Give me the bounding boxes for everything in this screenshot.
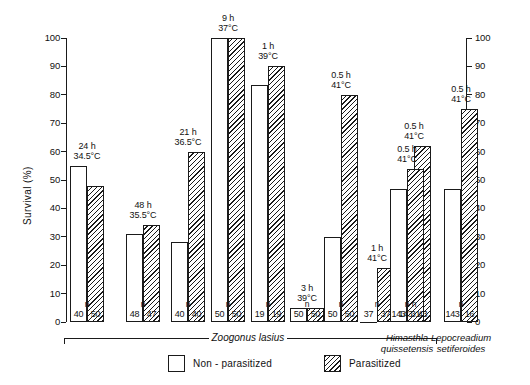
bar-hatched-10	[461, 109, 478, 322]
bar-open-7	[360, 322, 377, 323]
y-tick-label-left-0: 0	[30, 317, 60, 327]
legend-swatch-open-icon	[168, 355, 185, 372]
y-tick-label-left-100: 100	[30, 33, 60, 43]
n-value-hatched-1: 47	[139, 310, 164, 319]
annotation-temperature-10: 41°C	[435, 94, 487, 104]
legend-item-non-parasitized: Non - parasitized	[168, 355, 272, 372]
y-tick-left-40	[61, 208, 66, 209]
species-label-lepocreadium-setiferoides-line1: Lepocreadium	[419, 332, 503, 343]
y-tick-label-left-20: 20	[30, 260, 60, 270]
y-tick-left-0	[61, 322, 66, 323]
species-label-lepocreadium-setiferoides: Lepocreadiumsetiferoides	[419, 332, 503, 354]
survival-bar-chart: Survival (%) 001010202030304040505060607…	[0, 0, 530, 385]
y-tick-label-right-60: 60	[475, 147, 505, 157]
y-tick-left-50	[61, 180, 66, 181]
y-tick-label-right-30: 30	[475, 232, 505, 242]
n-marker-6: n	[327, 300, 355, 309]
n-value-hatched-2: 40	[184, 310, 209, 319]
y-tick-left-80	[61, 94, 66, 95]
species-label-lepocreadium-setiferoides-line2: setiferoides	[419, 343, 503, 354]
bar-open-3	[211, 38, 228, 322]
y-tick-right-100	[467, 38, 472, 39]
annotation-temperature-7: 41°C	[351, 253, 403, 263]
y-tick-label-left-70: 70	[30, 118, 60, 128]
y-tick-label-right-100: 100	[475, 33, 505, 43]
legend-label-non-parasitized: Non - parasitized	[193, 358, 272, 369]
bar-hatched-2	[188, 152, 205, 322]
annotation-duration-8: 0.5 h	[388, 121, 440, 131]
bar-annotation-8: 0.5 h41°C	[388, 121, 440, 141]
bar-annotation-7: 1 h41°C	[351, 243, 403, 263]
annotation-temperature-8: 41°C	[388, 131, 440, 141]
n-marker-3: n	[214, 300, 242, 309]
bar-annotation-2: 21 h36.5°C	[162, 127, 214, 147]
bar-annotation-10: 0.5 h41°C	[435, 84, 487, 104]
y-tick-label-right-20: 20	[475, 260, 505, 270]
y-tick-label-right-40: 40	[475, 203, 505, 213]
n-marker-7: n	[363, 300, 391, 309]
annotation-temperature-4: 39°C	[242, 51, 294, 61]
bar-annotation-3: 9 h37°C	[202, 13, 254, 33]
y-tick-left-90	[61, 66, 66, 67]
annotation-duration-1: 48 h	[117, 200, 169, 210]
n-marker-10: n	[447, 300, 475, 309]
n-marker-0: n	[73, 300, 101, 309]
y-tick-label-right-10: 10	[475, 289, 505, 299]
y-tick-label-right-50: 50	[475, 175, 505, 185]
n-value-hatched-3: 50	[224, 310, 249, 319]
annotation-duration-5: 3 h	[281, 283, 333, 293]
y-tick-label-left-40: 40	[30, 203, 60, 213]
y-tick-label-right-70: 70	[475, 118, 505, 128]
bar-annotation-9: 0.5 h41°C	[381, 144, 433, 164]
bar-annotation-0: 24 h34.5°C	[61, 141, 113, 161]
n-marker-9: n	[393, 300, 421, 309]
annotation-duration-2: 21 h	[162, 127, 214, 137]
y-tick-left-20	[61, 265, 66, 266]
y-axis-left	[66, 38, 67, 322]
bar-annotation-1: 48 h35.5°C	[117, 200, 169, 220]
n-marker-2: n	[174, 300, 202, 309]
n-value-hatched-10: 16	[457, 310, 482, 319]
y-tick-left-100	[61, 38, 66, 39]
y-tick-left-30	[61, 236, 66, 237]
n-value-hatched-9: 31	[403, 310, 428, 319]
legend: Non - parasitized Parasitized	[168, 355, 401, 372]
annotation-temperature-0: 34.5°C	[61, 151, 113, 161]
bar-hatched-6	[341, 95, 358, 322]
y-tick-label-left-80: 80	[30, 90, 60, 100]
annotation-duration-6: 0.5 h	[315, 70, 367, 80]
annotation-temperature-9: 41°C	[381, 154, 433, 164]
legend-swatch-hatched-icon	[324, 355, 341, 372]
annotation-duration-4: 1 h	[242, 41, 294, 51]
y-tick-label-left-10: 10	[30, 289, 60, 299]
y-tick-right-90	[467, 66, 472, 67]
y-tick-label-left-50: 50	[30, 175, 60, 185]
annotation-duration-3: 9 h	[202, 13, 254, 23]
n-value-hatched-0: 50	[83, 310, 108, 319]
y-tick-left-70	[61, 123, 66, 124]
annotation-temperature-1: 35.5°C	[117, 210, 169, 220]
annotation-duration-9: 0.5 h	[381, 144, 433, 154]
annotation-temperature-2: 36.5°C	[162, 137, 214, 147]
bar-hatched-3	[228, 38, 245, 322]
bar-open-4	[251, 85, 268, 322]
annotation-temperature-6: 41°C	[315, 80, 367, 90]
y-tick-label-left-30: 30	[30, 232, 60, 242]
species-label-zoogonus-lasius: Zoogonus lasius	[209, 332, 288, 343]
legend-item-parasitized: Parasitized	[324, 355, 401, 372]
n-marker-4: n	[254, 300, 282, 309]
bar-annotation-4: 1 h39°C	[242, 41, 294, 61]
annotation-temperature-3: 37°C	[202, 23, 254, 33]
y-tick-label-left-90: 90	[30, 61, 60, 71]
annotation-duration-10: 0.5 h	[435, 84, 487, 94]
y-tick-label-right-90: 90	[475, 61, 505, 71]
n-marker-5: n	[293, 300, 321, 309]
legend-label-parasitized: Parasitized	[349, 358, 401, 369]
annotation-duration-7: 1 h	[351, 243, 403, 253]
y-tick-left-10	[61, 293, 66, 294]
n-marker-1: n	[129, 300, 157, 309]
y-tick-label-left-60: 60	[30, 147, 60, 157]
bar-annotation-6: 0.5 h41°C	[315, 70, 367, 90]
annotation-duration-0: 24 h	[61, 141, 113, 151]
